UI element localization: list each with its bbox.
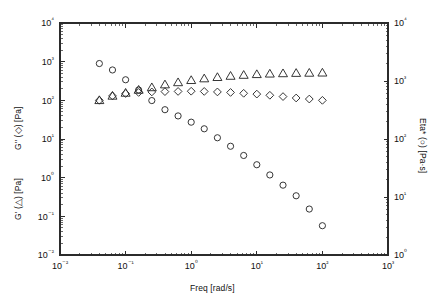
data-point-diamond [187, 87, 195, 95]
data-point-diamond [305, 95, 313, 103]
data-point-circle [280, 182, 286, 188]
y-tick-label-left: 10⁻² [38, 248, 55, 260]
x-tick-label: 10³ [382, 259, 395, 271]
data-point-triangle [279, 69, 288, 77]
x-tick-label: 10² [316, 259, 329, 271]
data-point-diamond [319, 96, 327, 104]
data-point-diamond [161, 88, 169, 96]
data-point-diamond [148, 88, 156, 96]
data-point-triangle [239, 71, 248, 79]
x-tick-label: 10⁰ [185, 259, 198, 271]
y-tick-label-left: 10⁰ [41, 171, 54, 183]
x-tick-label: 10⁻¹ [118, 259, 135, 271]
series-circle [96, 60, 325, 228]
data-point-circle [319, 223, 325, 229]
data-point-circle [267, 172, 273, 178]
data-point-circle [96, 60, 102, 66]
data-point-circle [293, 193, 299, 199]
data-point-diamond [200, 88, 208, 96]
data-point-diamond [253, 90, 261, 98]
data-point-circle [175, 113, 181, 119]
data-point-triangle [226, 72, 235, 80]
data-point-diamond [227, 89, 235, 97]
y-axis-right-title-text: Eta* (○) [Pa·s] [418, 118, 428, 173]
y-tick-label-right: 10³ [394, 74, 407, 86]
y-axis-right-title: Eta* (○) [Pa·s] [418, 118, 428, 173]
data-point-diamond [174, 88, 182, 96]
y-tick-label-left: 10¹ [42, 132, 55, 144]
data-point-triangle [318, 68, 327, 76]
data-point-circle [201, 126, 207, 132]
x-tick-label: 10¹ [251, 259, 264, 271]
data-point-triangle [213, 73, 222, 81]
y-axis-left-title-gpp-text: G'' (◇) [Pa] [14, 106, 23, 150]
y-tick-label-right: 10² [394, 132, 407, 144]
data-point-circle [227, 143, 233, 149]
data-point-circle [123, 77, 129, 83]
y-tick-label-left: 10² [42, 94, 55, 106]
data-point-circle [162, 107, 168, 113]
data-point-diamond [292, 94, 300, 102]
y-tick-label-right: 10⁴ [394, 16, 407, 28]
data-point-triangle [292, 69, 301, 77]
data-point-circle [188, 119, 194, 125]
data-point-circle [109, 67, 115, 73]
y-axis-left-title-gp-text: G' (△) [Pa] [14, 178, 23, 220]
y-axis-left-title-gp: G' (△) [Pa] [14, 178, 23, 220]
data-point-triangle [200, 74, 209, 82]
y-tick-label-right: 10¹ [394, 190, 407, 202]
data-point-triangle [174, 78, 183, 86]
y-axis-left-title-gpp: G'' (◇) [Pa] [14, 106, 23, 150]
x-axis-title: Freq [rad/s] [190, 283, 235, 293]
data-point-circle [241, 152, 247, 158]
data-point-triangle [252, 70, 261, 78]
data-point-circle [306, 206, 312, 212]
data-point-diamond [279, 93, 287, 101]
data-point-triangle [147, 83, 156, 91]
data-point-triangle [160, 80, 169, 88]
data-point-triangle [265, 69, 274, 77]
rheology-scatter-plot: 10⁻²10⁻¹10⁰10¹10²10³10⁻²10⁻¹10⁰10¹10²10³… [0, 0, 442, 302]
data-point-circle [214, 135, 220, 141]
y-tick-label-right: 10⁰ [394, 248, 407, 260]
x-tick-label: 10⁻² [52, 259, 69, 271]
data-point-circle [254, 162, 260, 168]
data-point-triangle [305, 68, 314, 76]
data-point-circle [149, 97, 155, 103]
y-tick-label-left: 10⁻¹ [38, 210, 55, 222]
y-tick-label-left: 10⁴ [41, 16, 54, 28]
data-point-diamond [214, 88, 222, 96]
data-point-diamond [266, 91, 274, 99]
data-point-diamond [240, 89, 248, 97]
plot-frame [60, 23, 388, 255]
y-tick-label-left: 10³ [42, 55, 55, 67]
data-point-triangle [187, 76, 196, 84]
